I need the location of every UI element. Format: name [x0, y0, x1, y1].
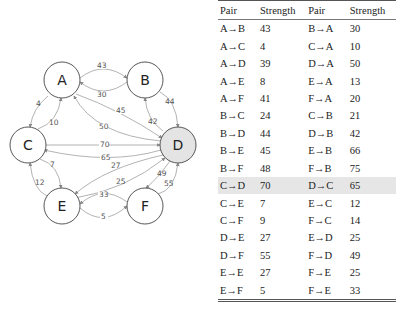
cell: E→A — [306, 72, 348, 89]
cell: 20 — [348, 90, 396, 107]
cell: B→E — [218, 142, 258, 159]
table-body: A→B43B→A30 A→C4C→A10 A→D39D→A50 A→E8E→A1… — [218, 20, 396, 301]
edge-label-A-B: 43 — [97, 61, 107, 70]
cell: 44 — [258, 125, 306, 142]
node-B: B — [127, 62, 163, 98]
edge-label-F-D: 55 — [164, 179, 174, 188]
cell: B→C — [218, 107, 258, 124]
node-label-C: C — [23, 137, 33, 153]
cell: E→C — [306, 194, 348, 211]
table-row: A→B43B→A30 — [218, 20, 396, 38]
cell: F→E — [306, 282, 348, 301]
network-diagram: 43 30 4 10 45 50 44 42 70 65 27 25 7 12 … — [0, 0, 210, 314]
cell: C→E — [218, 194, 258, 211]
cell: E→E — [218, 264, 258, 281]
table-row: A→E8E→A13 — [218, 72, 396, 89]
header-strength-2: Strength — [348, 1, 396, 20]
cell: 4 — [258, 37, 306, 54]
cell: C→F — [218, 212, 258, 229]
node-label-E: E — [58, 198, 67, 214]
cell: 13 — [348, 72, 396, 89]
cell: B→A — [306, 20, 348, 38]
edge-label-C-D: 70 — [100, 140, 110, 149]
edge-label-B-D: 44 — [165, 97, 175, 106]
table-row: A→C4C→A10 — [218, 37, 396, 54]
cell: 48 — [258, 160, 306, 177]
edge-label-A-D: 45 — [116, 106, 126, 115]
cell: 24 — [258, 107, 306, 124]
cell: 30 — [348, 20, 396, 38]
node-label-B: B — [140, 72, 150, 88]
cell: 27 — [258, 229, 306, 246]
table-row: A→F41F→A20 — [218, 90, 396, 107]
cell: 10 — [348, 37, 396, 54]
cell: 5 — [258, 282, 306, 301]
cell: D→A — [306, 55, 348, 72]
table-row-highlighted: C→D70D→C65 — [218, 177, 396, 194]
cell: 8 — [258, 72, 306, 89]
cell: 14 — [348, 212, 396, 229]
cell: 49 — [348, 247, 396, 264]
edge-label-D-B: 42 — [148, 117, 158, 126]
table-row: D→E27E→D25 — [218, 229, 396, 246]
edge-label-E-F: 5 — [101, 212, 106, 221]
cell: A→B — [218, 20, 258, 38]
cell: D→F — [218, 247, 258, 264]
cell: 7 — [258, 194, 306, 211]
cell: 45 — [258, 142, 306, 159]
table-row: B→E45E→B66 — [218, 142, 396, 159]
edge-label-F-E: 33 — [99, 190, 109, 199]
table-row: E→E27F→E25 — [218, 264, 396, 281]
header-pair-1: Pair — [218, 1, 258, 20]
edge-label-A-C: 4 — [36, 99, 41, 108]
node-label-D: D — [173, 137, 184, 153]
cell: A→F — [218, 90, 258, 107]
cell: C→A — [306, 37, 348, 54]
edge-D-B — [145, 98, 163, 131]
table-row: A→D39D→A50 — [218, 55, 396, 72]
edge-label-D-A: 50 — [99, 122, 109, 131]
header-strength-1: Strength — [258, 1, 306, 20]
cell: 25 — [348, 229, 396, 246]
cell: D→E — [218, 229, 258, 246]
cell: B→F — [218, 160, 258, 177]
table-row: C→F9F→C14 — [218, 212, 396, 229]
cell: A→D — [218, 55, 258, 72]
table-row: B→C24C→B21 — [218, 107, 396, 124]
cell: E→D — [306, 229, 348, 246]
edge-label-D-C: 65 — [101, 153, 111, 162]
cell: D→B — [306, 125, 348, 142]
cell: 33 — [348, 282, 396, 301]
cell: E→F — [218, 282, 258, 301]
cell: C→B — [306, 107, 348, 124]
cell: F→A — [306, 90, 348, 107]
cell: 25 — [348, 264, 396, 281]
cell: A→C — [218, 37, 258, 54]
edge-label-C-E: 7 — [50, 160, 55, 169]
cell: F→C — [306, 212, 348, 229]
node-C: C — [10, 127, 46, 163]
cell: 27 — [258, 264, 306, 281]
cell: 39 — [258, 55, 306, 72]
node-A: A — [44, 62, 80, 98]
strength-table: Pair Strength Pair Strength A→B43B→A30 A… — [218, 0, 396, 302]
table-row: E→F5F→E33 — [218, 282, 396, 301]
header-pair-2: Pair — [306, 1, 348, 20]
cell: 43 — [258, 20, 306, 38]
edge-label-D-E: 27 — [111, 161, 121, 170]
cell: 12 — [348, 194, 396, 211]
table-row: B→F48F→B75 — [218, 160, 396, 177]
cell: 21 — [348, 107, 396, 124]
node-label-A: A — [57, 72, 67, 88]
cell: 42 — [348, 125, 396, 142]
node-E: E — [44, 188, 80, 224]
cell: E→B — [306, 142, 348, 159]
cell: 75 — [348, 160, 396, 177]
cell: 55 — [258, 247, 306, 264]
table-row: D→F55F→D49 — [218, 247, 396, 264]
edge-A-D — [76, 94, 162, 138]
edge-label-E-D: 25 — [116, 177, 126, 186]
edge-label-D-F: 49 — [157, 169, 167, 178]
cell: B→D — [218, 125, 258, 142]
cell: A→E — [218, 72, 258, 89]
